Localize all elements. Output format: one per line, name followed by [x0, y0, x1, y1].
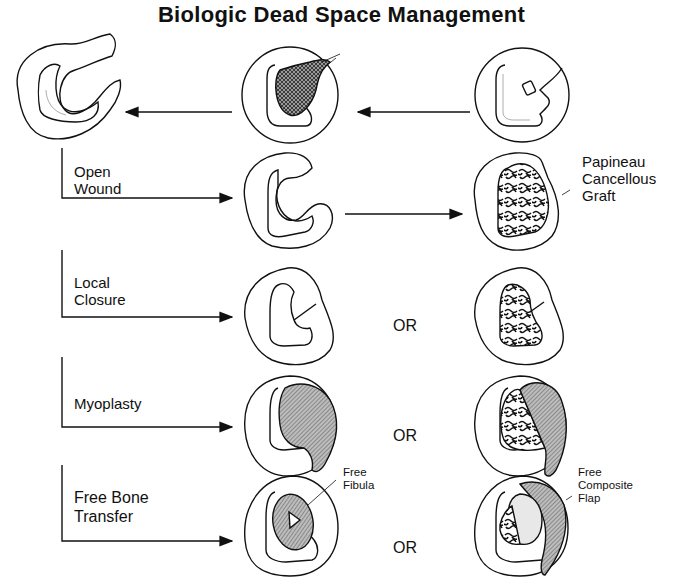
annotation-papineau-line-2: Cancellous: [582, 170, 656, 187]
figure-open-wound: [244, 153, 332, 248]
figure-sequestrum: [475, 48, 569, 142]
annotation-free-composite-flap-line-1: Free: [578, 466, 633, 479]
or-label-myoplasty: OR: [393, 427, 417, 445]
label-myoplasty-line-1: Myoplasty: [74, 395, 142, 412]
figure-free-composite-flap: [475, 476, 572, 576]
annotation-free-fibula-line-1: Free: [343, 466, 374, 479]
annotation-free-composite-flap: Free Composite Flap: [578, 466, 633, 505]
label-open-wound-line-2: Wound: [74, 180, 121, 197]
figure-bead-pouch: [242, 47, 340, 143]
annotation-papineau-line-1: Papineau: [582, 153, 656, 170]
annotation-free-composite-flap-line-2: Composite: [578, 479, 633, 492]
connector-myoplasty: [62, 357, 232, 427]
label-local-closure-line-2: Closure: [74, 291, 126, 308]
annotation-free-fibula: Free Fibula: [343, 466, 374, 492]
or-label-free-bone-transfer: OR: [393, 539, 417, 557]
or-label-local-closure: OR: [393, 317, 417, 335]
figure-open-defect: [17, 34, 120, 139]
label-open-wound: Open Wound: [74, 163, 121, 197]
figure-local-closure-graft: [475, 268, 564, 365]
annotation-free-fibula-line-2: Fibula: [343, 479, 374, 492]
label-open-wound-line-1: Open: [74, 163, 121, 180]
annotation-papineau-line-3: Graft: [582, 187, 656, 204]
annotation-free-composite-flap-line-3: Flap: [578, 492, 633, 505]
label-free-bone-transfer-line-1: Free Bone: [74, 488, 149, 507]
label-free-bone-transfer: Free Bone Transfer: [74, 488, 149, 526]
figure-myoplasty: [245, 376, 337, 476]
figure-free-fibula: [245, 476, 338, 576]
label-free-bone-transfer-line-2: Transfer: [74, 507, 149, 526]
figure-cancellous-graft: [474, 153, 570, 250]
annotation-papineau-cancellous-graft: Papineau Cancellous Graft: [582, 153, 656, 204]
label-local-closure: Local Closure: [74, 274, 126, 308]
cropped-caption: [16, 571, 516, 577]
figure-local-closure: [245, 268, 334, 365]
label-local-closure-line-1: Local: [74, 274, 126, 291]
figure-myoplasty-graft: [475, 376, 567, 476]
label-myoplasty: Myoplasty: [74, 395, 142, 412]
